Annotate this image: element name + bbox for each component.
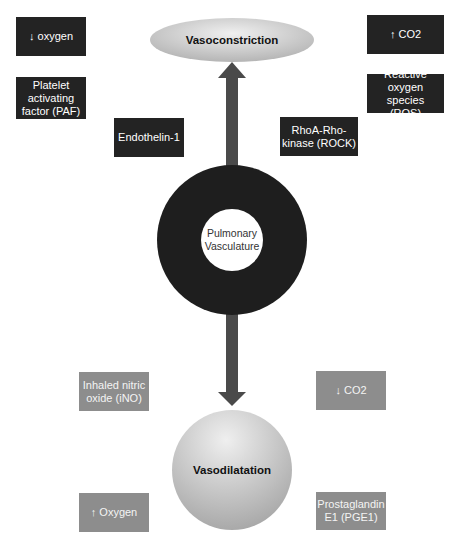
factor-rock: RhoA-Rho- kinase (ROCK) xyxy=(280,117,358,156)
factor-paf: Platelet activating factor (PAF) xyxy=(16,77,86,119)
factor-high-oxygen: ↑ Oxygen xyxy=(79,493,149,532)
factor-ino: Inhaled nitric oxide (iNO) xyxy=(79,372,149,411)
down-arrow-icon xyxy=(218,310,246,406)
factor-low-co2: ↓ CO2 xyxy=(316,371,386,410)
vasoconstriction-node: Vasoconstriction xyxy=(150,18,314,62)
pulmonary-vasculature-node: Pulmonary Vasculature xyxy=(201,209,263,271)
factor-ros: Reactive oxygen species (ROS) xyxy=(367,74,444,113)
factor-pge1: Prostaglandin E1 (PGE1) xyxy=(316,492,386,530)
up-arrow-icon xyxy=(218,62,246,172)
vasodilatation-node: Vasodilatation xyxy=(172,450,292,490)
factor-high-co2: ↑ CO2 xyxy=(367,15,444,54)
factor-endothelin: Endothelin-1 xyxy=(114,118,184,157)
factor-low-oxygen: ↓ oxygen xyxy=(16,17,86,56)
